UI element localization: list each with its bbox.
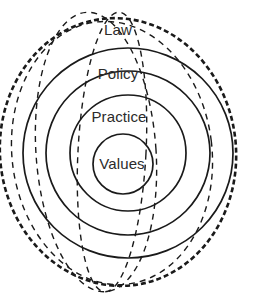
- overlay-curve-thin-dashed-center: [71, 10, 154, 293]
- rings-svg: [0, 0, 257, 301]
- ring-label-practice: Practice: [92, 109, 147, 124]
- diagram-canvas: Law Policy Practice Values: [0, 0, 257, 301]
- overlay-curve-thin-dashed-wide: [0, 10, 227, 296]
- ring-label-values: Values: [99, 156, 144, 171]
- ring-label-law: Law: [104, 22, 132, 37]
- ring-label-policy: Policy: [98, 66, 139, 81]
